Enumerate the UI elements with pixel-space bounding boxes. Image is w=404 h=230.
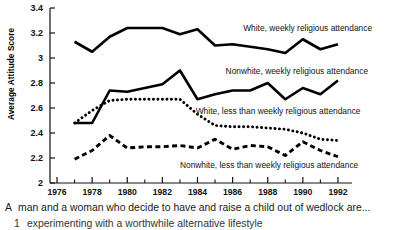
x-tick-label: 1984 <box>188 187 207 196</box>
y-tick-label: 3.2 <box>30 28 43 38</box>
caption-line-1-marker: A <box>5 200 18 216</box>
x-tick-label: 1990 <box>293 187 312 196</box>
caption-line-1: Aman and a woman who decide to have and … <box>0 196 404 216</box>
x-tick-label: 1976 <box>47 187 66 196</box>
y-axis-label: Average Attitude Score <box>7 28 16 120</box>
data-series-layer <box>75 28 338 159</box>
x-tick-label: 1980 <box>118 187 137 196</box>
x-tick-label: 1992 <box>328 187 347 196</box>
caption-line-2-marker: 1 <box>14 216 27 230</box>
series-label-2: White, less than weekly religious attend… <box>196 106 361 116</box>
y-tick-label: 3 <box>38 53 43 63</box>
line-chart: Average Attitude Score 22.22.42.62.833.2… <box>0 0 404 196</box>
y-tick-label: 2.4 <box>30 128 43 138</box>
series-label-1: Nonwhite, weekly religious attendance <box>226 66 369 76</box>
y-axis-ticks: 22.22.42.62.833.23.4 <box>30 3 55 188</box>
x-tick-label: 1978 <box>83 187 102 196</box>
x-tick-label: 1986 <box>223 187 242 196</box>
figure-container: Average Attitude Score 22.22.42.62.833.2… <box>0 0 404 230</box>
x-axis-ticks: 197619781980198219841986198819901992 <box>47 177 347 196</box>
y-tick-label: 2 <box>38 178 43 188</box>
figure-caption: Aman and a woman who decide to have and … <box>0 196 404 230</box>
y-tick-label: 2.6 <box>30 103 43 113</box>
x-tick-label: 1982 <box>153 187 172 196</box>
caption-line-2-text: experimenting with a worthwhile alternat… <box>27 218 263 229</box>
series-label-0: White, weekly religious attendance <box>243 23 372 33</box>
y-tick-label: 2.2 <box>30 153 43 163</box>
x-tick-label: 1988 <box>258 187 277 196</box>
y-tick-label: 3.4 <box>30 3 43 13</box>
series-line-3 <box>75 136 338 160</box>
caption-line-1-text: man and a woman who decide to have and r… <box>18 202 370 213</box>
caption-line-2: 1experimenting with a worthwhile alterna… <box>0 216 404 230</box>
series-label-3: Nonwhite, less than weekly religious att… <box>180 160 359 170</box>
y-tick-label: 2.8 <box>30 78 43 88</box>
chart-area: Average Attitude Score 22.22.42.62.833.2… <box>0 0 404 196</box>
